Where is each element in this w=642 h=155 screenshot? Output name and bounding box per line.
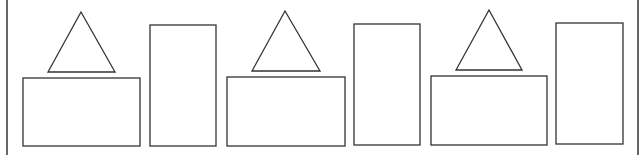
tall-rectangle	[556, 23, 623, 144]
shape-group-1	[23, 12, 216, 146]
triangle	[48, 12, 115, 72]
shape-group-2	[227, 11, 420, 146]
tall-rectangle	[354, 24, 420, 145]
wide-rectangle	[23, 78, 140, 146]
wide-rectangle	[431, 76, 547, 145]
shapes-diagram	[0, 0, 642, 155]
shape-groups	[23, 10, 623, 146]
triangle	[252, 11, 320, 71]
triangle	[456, 10, 522, 70]
shape-group-3	[431, 10, 623, 145]
tall-rectangle	[150, 25, 216, 146]
wide-rectangle	[227, 77, 345, 146]
